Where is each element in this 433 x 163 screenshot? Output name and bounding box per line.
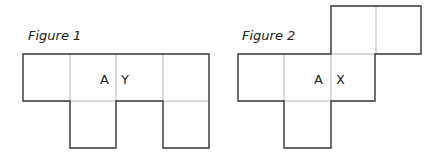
fold-lines bbox=[70, 54, 209, 101]
figure-1: Figure 1 A Y bbox=[23, 28, 209, 148]
cube-nets-diagram: Figure 1 A Y Figure 2 A X bbox=[0, 0, 433, 163]
figure-1-title: Figure 1 bbox=[28, 28, 81, 43]
face-label-a: A bbox=[314, 72, 323, 87]
face-label-x: X bbox=[336, 72, 345, 87]
face-label-y: Y bbox=[120, 72, 129, 87]
figure-2-title: Figure 2 bbox=[242, 28, 295, 43]
face-label-a: A bbox=[100, 72, 109, 87]
figure-2: Figure 2 A X bbox=[238, 6, 421, 148]
